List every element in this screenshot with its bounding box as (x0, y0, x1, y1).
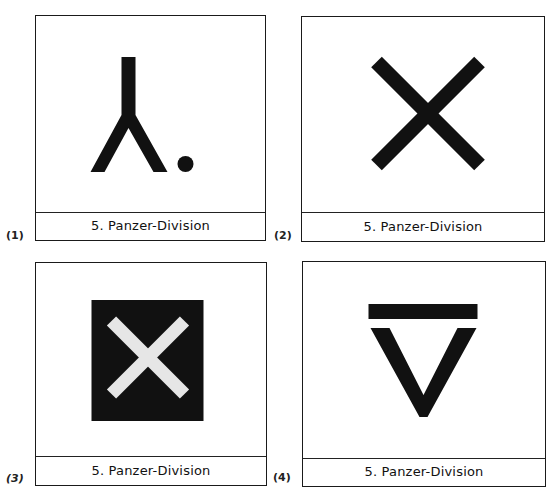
inverted-y-with-dot-icon (36, 16, 265, 212)
panel-number-3: (3) (6, 472, 24, 485)
panel-label-2: 5. Panzer-Division (302, 212, 544, 241)
panel-label-1: 5. Panzer-Division (36, 212, 265, 240)
panel-number-4: (4) (273, 471, 291, 484)
panel-3: 5. Panzer-Division (35, 262, 267, 486)
panel-label-4: 5. Panzer-Division (303, 458, 545, 486)
light-x-on-dark-square-icon (36, 263, 266, 458)
panel-label-3: 5. Panzer-Division (36, 456, 266, 485)
panel-number-1: (1) (6, 229, 24, 242)
panel-2: 5. Panzer-Division (301, 16, 545, 242)
x-cross-icon (302, 17, 544, 213)
panel-number-2: (2) (274, 229, 292, 242)
panel-4: 5. Panzer-Division (302, 261, 546, 487)
bar-over-v-icon (303, 262, 545, 458)
panel-1: 5. Panzer-Division (35, 15, 266, 241)
